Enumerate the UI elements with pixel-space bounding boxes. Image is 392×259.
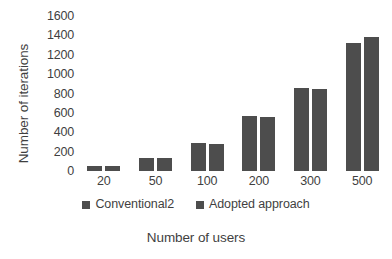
plot-area: [78, 16, 388, 171]
bar: [346, 43, 361, 171]
bar-group: [233, 16, 285, 171]
y-tick-label: 1400: [32, 29, 74, 41]
bar: [242, 116, 257, 171]
bar: [191, 143, 206, 171]
y-tick-label: 200: [32, 146, 74, 158]
y-tick-label: 400: [32, 126, 74, 138]
bar: [87, 166, 102, 171]
bar: [157, 158, 172, 171]
bar: [294, 88, 309, 171]
x-tick-label: 300: [285, 174, 337, 188]
bar: [260, 117, 275, 171]
bar: [139, 158, 154, 171]
x-tick-label: 100: [181, 174, 233, 188]
bar-group: [285, 16, 337, 171]
chart-legend: Conventional2Adopted approach: [0, 198, 392, 211]
y-tick-label: 1600: [32, 10, 74, 22]
x-axis-title: Number of users: [0, 230, 392, 245]
y-tick-label: 800: [32, 88, 74, 100]
legend-item: Adopted approach: [196, 198, 310, 211]
bar-group: [78, 16, 130, 171]
bar: [364, 37, 379, 171]
legend-label: Conventional2: [95, 198, 174, 211]
x-axis-tick-labels: 2050100200300500: [78, 174, 388, 190]
bar-group: [181, 16, 233, 171]
y-tick-label: 600: [32, 107, 74, 119]
bar: [209, 144, 224, 171]
y-axis-tick-labels: 16001400120010008006004002000: [32, 0, 74, 259]
x-tick-label: 200: [233, 174, 285, 188]
legend-item: Conventional2: [82, 198, 174, 211]
bar: [312, 89, 327, 171]
y-tick-label: 1200: [32, 49, 74, 61]
bar: [105, 166, 120, 171]
bar-group: [130, 16, 182, 171]
legend-swatch-icon: [82, 201, 90, 209]
y-tick-label: 0: [32, 165, 74, 177]
y-tick-label: 1000: [32, 68, 74, 80]
y-axis-title: Number of iterations: [16, 24, 31, 184]
legend-swatch-icon: [196, 201, 204, 209]
bar-group: [336, 16, 388, 171]
x-tick-label: 50: [130, 174, 182, 188]
x-tick-label: 500: [336, 174, 388, 188]
legend-label: Adopted approach: [209, 198, 310, 211]
bar-chart: Number of iterations 1600140012001000800…: [0, 0, 392, 259]
x-tick-label: 20: [78, 174, 130, 188]
